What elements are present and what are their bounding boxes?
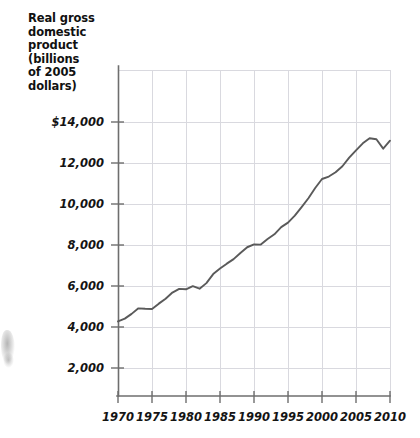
- y-tick-label-4000: 4,000: [12, 320, 104, 334]
- y-tick-label-2000: 2,000: [12, 361, 104, 375]
- y-tick-label-10000: 10,000: [12, 197, 104, 211]
- y-tick-label-14000: $14,000: [12, 115, 104, 129]
- y-tick-label-8000: 8,000: [12, 238, 104, 252]
- x-tick-label-2010: 2010: [367, 410, 413, 424]
- y-tick-label-6000: 6,000: [12, 279, 104, 293]
- y-tick-label-12000: 12,000: [12, 156, 104, 170]
- gdp-line-chart-figure: Real gross domestic product (billions of…: [0, 0, 420, 438]
- x-tick-marks: [118, 391, 390, 403]
- grid-lines: [118, 70, 390, 396]
